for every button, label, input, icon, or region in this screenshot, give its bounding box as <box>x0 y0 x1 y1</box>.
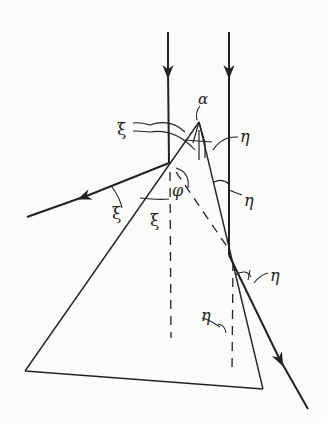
label-eta-top: η <box>240 127 250 146</box>
ray-right <box>229 32 308 409</box>
prism-right-face <box>199 122 263 389</box>
construction-lines <box>170 172 233 372</box>
label-alpha: α <box>198 90 208 108</box>
ray-left-exit <box>84 163 169 197</box>
label-xi-top: ξ <box>117 119 126 139</box>
label-eta-right-mid: η <box>244 191 254 210</box>
label-phi: φ <box>172 181 184 200</box>
label-eta-lower-left: η <box>201 306 211 325</box>
normal-dashed-left <box>170 172 171 338</box>
label-xi-left-outer: ξ <box>112 203 121 223</box>
apex-detail <box>185 122 212 160</box>
prism-left-face <box>25 122 199 371</box>
angle-arcs <box>112 123 251 333</box>
normal-dashed-right <box>232 262 233 372</box>
prism-base <box>25 371 263 389</box>
prism <box>25 122 263 389</box>
label-eta-lower-right: η <box>270 266 280 285</box>
prism-ray-diagram: α ξ η η φ ξ ξ η η <box>0 0 327 423</box>
label-xi-left-inner: ξ <box>150 210 159 230</box>
